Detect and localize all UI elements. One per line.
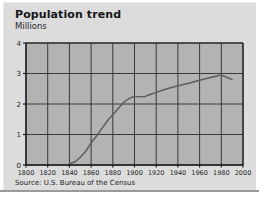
source-note: Source: U.S. Bureau of the Census bbox=[15, 179, 135, 187]
x-tick-label: 1860 bbox=[83, 169, 100, 177]
chart-card: Population trend Millions 01234 18001820… bbox=[3, 2, 256, 190]
y-tick-label: 3 bbox=[17, 70, 21, 78]
x-tick-label: 1900 bbox=[126, 169, 143, 177]
x-tick-label: 1960 bbox=[191, 169, 208, 177]
y-tick-label: 1 bbox=[17, 131, 21, 139]
x-tick-label: 2000 bbox=[235, 169, 252, 177]
x-tick-label: 1940 bbox=[170, 169, 187, 177]
y-tick-label: 2 bbox=[17, 101, 21, 109]
y-tick-label: 4 bbox=[17, 40, 22, 48]
x-tick-label: 1800 bbox=[18, 169, 35, 177]
x-tick-label: 1920 bbox=[148, 169, 165, 177]
bottom-white-strip bbox=[0, 192, 259, 199]
y-tick-labels-group: 01234 bbox=[17, 40, 22, 170]
population-trend-figure: Population trend Millions 01234 18001820… bbox=[0, 0, 259, 199]
x-tick-label: 1880 bbox=[105, 169, 122, 177]
x-tick-label: 1820 bbox=[39, 169, 56, 177]
x-tick-label: 1980 bbox=[213, 169, 230, 177]
x-tick-labels-group: 1800182018401860188019001920194019601980… bbox=[18, 169, 252, 177]
x-tick-label: 1840 bbox=[61, 169, 78, 177]
plot-area: 01234 1800182018401860188019001920194019… bbox=[3, 2, 256, 190]
chart-svg: 01234 1800182018401860188019001920194019… bbox=[3, 2, 256, 190]
